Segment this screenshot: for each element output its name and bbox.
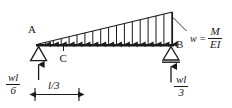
equation-leader-line (173, 18, 187, 32)
support-left-pin (31, 47, 47, 61)
load-equation: w = M EI (190, 26, 222, 50)
reaction-right-value: wl 3 (174, 74, 188, 98)
label-point-b: B (176, 39, 183, 50)
label-point-c: C (60, 53, 67, 64)
label-point-a: A (28, 24, 36, 35)
reaction-left-value: wl 6 (6, 72, 20, 96)
reaction-left-numerator: wl (6, 72, 20, 85)
load-equation-numerator: M (208, 26, 222, 39)
beam-diagram-svg (0, 0, 232, 108)
load-equation-lhs: w = (190, 33, 206, 44)
beam-diagram-figure: A B C w = M EI wl 6 wl 3 l/3 (0, 0, 232, 108)
triangular-load-outline (38, 12, 173, 44)
reaction-left-denominator: 6 (6, 85, 20, 97)
load-equation-fraction: M EI (208, 26, 222, 50)
reaction-right-numerator: wl (174, 74, 188, 87)
load-equation-denominator: EI (208, 39, 222, 51)
dimension-label: l/3 (48, 79, 60, 91)
reaction-right-denominator: 3 (174, 87, 188, 99)
